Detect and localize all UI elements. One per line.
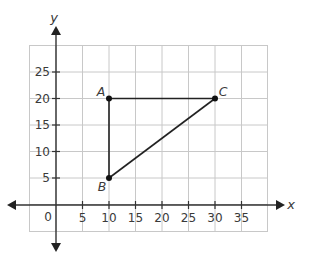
x-tick-label: 35 <box>234 211 249 225</box>
origin-label: 0 <box>44 210 52 224</box>
point-a-label: A <box>96 84 106 99</box>
point-a <box>106 96 112 102</box>
x-tick-label: 20 <box>154 211 169 225</box>
tick-marks <box>52 72 242 209</box>
x-axis-left-arrow-icon <box>7 200 16 210</box>
y-axis-up-arrow-icon <box>51 26 61 35</box>
y-tick-label: 25 <box>35 65 50 79</box>
x-tick-label: 25 <box>181 211 196 225</box>
x-axis-right-arrow-icon <box>276 200 285 210</box>
y-tick-label: 5 <box>42 171 50 185</box>
coordinate-plane: y x 0 5 10 15 20 25 30 35 5 10 15 20 25 … <box>0 0 309 260</box>
y-tick-label: 15 <box>35 118 50 132</box>
x-tick-label: 10 <box>101 211 116 225</box>
grid <box>29 45 268 232</box>
point-c-label: C <box>219 84 228 99</box>
y-axis-label: y <box>49 10 58 25</box>
point-b <box>106 175 112 181</box>
x-tick-label: 15 <box>128 211 143 225</box>
x-tick-label: 30 <box>207 211 222 225</box>
y-tick-label: 20 <box>35 92 50 106</box>
point-b-label: B <box>98 179 107 194</box>
y-axis-down-arrow-icon <box>51 243 61 252</box>
x-tick-label: 5 <box>79 211 87 225</box>
y-tick-label: 10 <box>35 145 50 159</box>
x-axis-label: x <box>286 197 295 212</box>
point-c <box>212 96 218 102</box>
